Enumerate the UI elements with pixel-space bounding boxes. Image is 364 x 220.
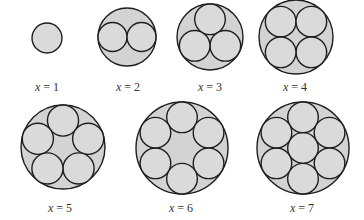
inner-circle: [195, 4, 226, 35]
inner-circle: [265, 37, 296, 68]
label-x3: x = 3: [198, 81, 222, 93]
inner-circle: [167, 102, 198, 133]
outer-circle: [32, 23, 62, 53]
label-value: = 7: [295, 201, 314, 215]
label-value: = 6: [174, 201, 193, 215]
inner-circle: [288, 102, 319, 133]
label-x6: x = 6: [169, 202, 193, 214]
inner-circle: [261, 148, 292, 179]
inner-circle: [261, 117, 292, 148]
inner-circle: [288, 163, 319, 194]
label-x1: x = 1: [35, 81, 59, 93]
inner-circle: [167, 163, 198, 194]
inner-circle: [193, 117, 224, 148]
packing-diagram-x6: [136, 102, 228, 194]
packing-diagram-x4: [259, 0, 333, 74]
inner-circle: [63, 153, 94, 184]
inner-circle: [193, 148, 224, 179]
label-value: = 4: [288, 80, 307, 94]
inner-circle: [73, 123, 104, 154]
packing-diagram-x7: [257, 102, 349, 194]
label-x7: x = 7: [290, 202, 314, 214]
label-x4: x = 4: [283, 81, 307, 93]
inner-circle: [127, 23, 156, 52]
inner-circle: [314, 148, 345, 179]
packing-diagram-x2: [98, 8, 156, 66]
packing-diagram-x1: [32, 23, 62, 53]
inner-circle: [22, 123, 53, 154]
circle-packing-figure: [0, 0, 364, 220]
inner-circle: [32, 153, 63, 184]
inner-circle: [140, 148, 171, 179]
inner-circle: [296, 37, 327, 68]
label-value: = 5: [53, 201, 72, 215]
inner-circle: [296, 6, 327, 37]
inner-circle: [98, 23, 127, 52]
label-value: = 2: [121, 80, 140, 94]
inner-circle: [210, 31, 241, 62]
packing-diagram-x5: [21, 105, 105, 189]
label-value: = 1: [40, 80, 59, 94]
label-value: = 3: [203, 80, 222, 94]
packing-diagram-x3: [177, 4, 243, 70]
inner-circle: [179, 31, 210, 62]
label-x2: x = 2: [116, 81, 140, 93]
inner-circle: [314, 117, 345, 148]
inner-circle: [140, 117, 171, 148]
inner-circle: [265, 6, 296, 37]
label-x5: x = 5: [48, 202, 72, 214]
inner-circle: [288, 133, 319, 164]
